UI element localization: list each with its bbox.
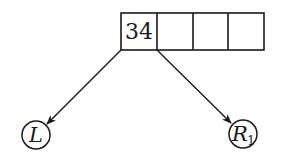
child-label: R [231, 122, 248, 146]
child-label: L [28, 123, 43, 147]
child-label-subscript: 1 [247, 134, 255, 148]
key-cell-0: 34 [125, 19, 153, 44]
pointer-arrow-right [157, 50, 231, 123]
pointer-arrow-left [47, 50, 121, 124]
b-tree-diagram: 34 L R 1 [0, 0, 286, 167]
child-node-r1: R 1 [229, 120, 257, 148]
tree-node: 34 [121, 13, 264, 50]
child-node-l: L [22, 121, 50, 149]
